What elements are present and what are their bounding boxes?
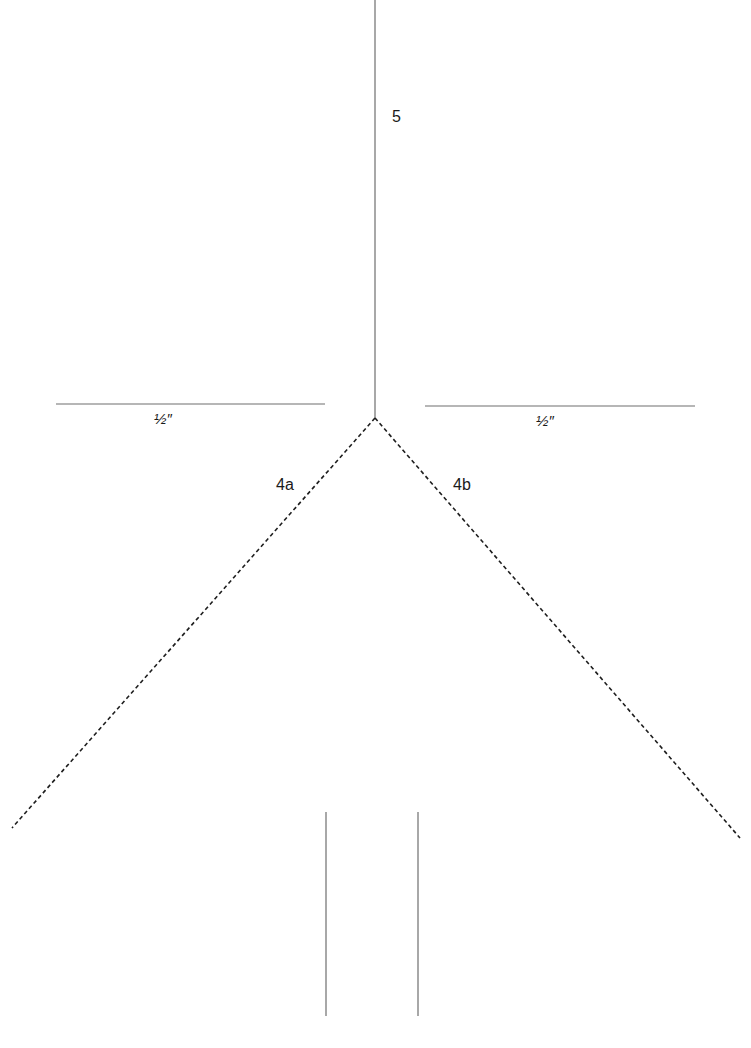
half-inch-right-label: ½″ <box>536 413 554 428</box>
fold-4a-label: 4a <box>276 477 294 493</box>
fold-5-label: 5 <box>392 109 401 125</box>
fold-4a-dashed-line <box>12 418 375 828</box>
fold-4b-label: 4b <box>453 477 471 493</box>
half-inch-left-label: ½″ <box>154 411 172 426</box>
fold-4b-dashed-line <box>375 418 740 838</box>
fold-diagram-canvas <box>0 0 751 1048</box>
